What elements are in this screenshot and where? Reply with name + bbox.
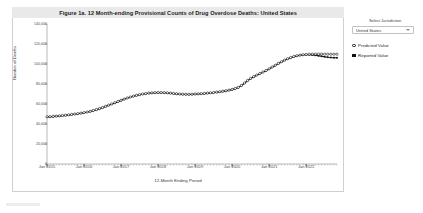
y-axis-title: Number of Deaths (12, 46, 17, 80)
y-axis-tick: 140,000 (34, 22, 47, 26)
chart-legend: Predicted Value Reported Value (352, 43, 418, 58)
x-axis-tick: Jan 2020 (224, 164, 240, 169)
x-axis-tick: Jan 2018 (150, 164, 166, 169)
x-axis-tick: Jan 2016 (76, 164, 92, 169)
y-axis-tick: 100,000 (34, 62, 47, 66)
y-axis-tick: 40,000 (36, 122, 47, 126)
chevron-down-icon (406, 29, 410, 31)
overdose-dashboard: Figure 1a. 12 Month-ending Provisional C… (0, 0, 423, 213)
filled-square-icon (352, 54, 356, 58)
x-axis-tick: Jan 2015 (39, 164, 55, 169)
x-axis-tick: Jan 2017 (113, 164, 129, 169)
page-title: Figure 1a. 12 Month-ending Provisional C… (59, 10, 297, 16)
y-axis-tick: 20,000 (36, 142, 47, 146)
plot-frame: Number of Deaths 020,00040,00060,00080,0… (12, 18, 344, 192)
chart-canvas (13, 18, 343, 191)
legend-label-predicted: Predicted Value (358, 43, 389, 48)
legend-item-predicted[interactable]: Predicted Value (352, 43, 418, 48)
jurisdiction-label: Select Jurisdiction (352, 18, 418, 23)
y-axis-tick: 80,000 (36, 82, 47, 86)
x-axis-tick: Jan 2019 (187, 164, 203, 169)
open-circle-icon (352, 44, 356, 48)
legend-label-reported: Reported Value (358, 53, 388, 58)
x-axis-title: 12-Month Ending Period (13, 178, 343, 183)
footer-artifact (6, 203, 40, 206)
control-panel: Select Jurisdiction United States Predic… (352, 18, 418, 63)
plot-area: Number of Deaths 020,00040,00060,00080,0… (13, 18, 343, 191)
y-axis-tick-labels: 020,00040,00060,00080,000100,000120,0001… (25, 18, 47, 158)
x-axis-tick: Jan 2022 (298, 164, 314, 169)
jurisdiction-value: United States (356, 28, 381, 33)
legend-item-reported[interactable]: Reported Value (352, 53, 418, 58)
y-axis-tick: 120,000 (34, 42, 47, 46)
x-axis-tick: Jan 2021 (261, 164, 277, 169)
y-axis-tick: 60,000 (36, 102, 47, 106)
jurisdiction-select[interactable]: United States (352, 26, 414, 34)
chart-card: Figure 1a. 12 Month-ending Provisional C… (12, 7, 344, 193)
